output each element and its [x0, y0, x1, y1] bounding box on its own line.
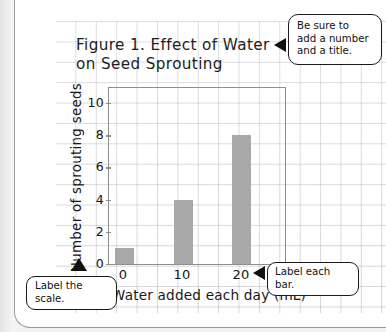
- y-tick-label-10: 10: [82, 95, 104, 110]
- callout-title-note-text: Be sure to add a number and a title.: [297, 20, 375, 58]
- callout-arrow-left-icon: [274, 38, 286, 52]
- callout-arrow-up-icon: [71, 258, 87, 271]
- y-tick-label-2: 2: [82, 224, 104, 239]
- callout-scale-note: Label the scale.: [26, 276, 117, 310]
- y-axis-ticks: 0246810: [80, 87, 104, 265]
- x-tick-label-10: 10: [165, 267, 199, 282]
- y-tick-mark-6: [106, 167, 111, 168]
- callout-arrow-left-icon: [253, 266, 265, 280]
- y-tick-mark-8: [106, 135, 111, 136]
- y-tick-label-6: 6: [82, 159, 104, 174]
- bar-20: [232, 135, 251, 264]
- y-tick-mark-2: [106, 232, 111, 233]
- callout-bar-note: Label each bar.: [267, 262, 359, 296]
- y-tick-label-8: 8: [82, 127, 104, 142]
- callout-scale-note-text: Label the scale.: [35, 280, 110, 305]
- y-tick-label-4: 4: [82, 192, 104, 207]
- y-tick-mark-0: [106, 264, 111, 265]
- y-tick-mark-10: [106, 103, 111, 104]
- bar-10: [174, 200, 193, 264]
- callout-bar-note-text: Label each bar.: [275, 266, 352, 291]
- bar-0: [115, 248, 134, 264]
- y-axis-title: Number of sprouting seeds: [69, 83, 84, 273]
- page-left-edge-shadow: [0, 0, 15, 332]
- figure-title: Figure 1. Effect of Water on Seed Sprout…: [76, 36, 276, 74]
- y-tick-mark-4: [106, 200, 111, 201]
- bars-container: [109, 87, 285, 264]
- callout-title-note: Be sure to add a number and a title.: [288, 14, 382, 65]
